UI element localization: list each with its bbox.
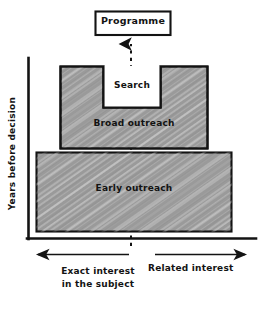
search-label: Search bbox=[103, 80, 161, 91]
y-axis-label: Years before decision bbox=[7, 94, 18, 214]
diagram-canvas: Programme Search Broad outreach Early ou… bbox=[0, 0, 271, 312]
x-axis-left-label-line1: Exact interest bbox=[50, 265, 146, 278]
programme-label: Programme bbox=[95, 15, 171, 27]
x-axis-right-label: Related interest bbox=[148, 263, 248, 274]
early-outreach-label: Early outreach bbox=[36, 183, 232, 194]
x-axis-left-label-line2: in the subject bbox=[50, 278, 146, 291]
broad-outreach-label: Broad outreach bbox=[60, 118, 208, 129]
x-axis-left-label: Exact interest in the subject bbox=[50, 265, 146, 291]
